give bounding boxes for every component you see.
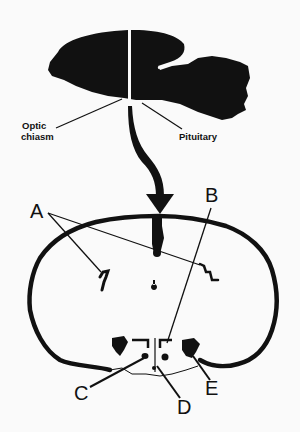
third-ventricle-bracket-right — [160, 340, 172, 348]
diagram: Optic chiasm Pituitary A B — [0, 0, 300, 432]
arrow-head — [146, 194, 174, 214]
right-lateral-ventricle — [200, 264, 218, 280]
b-leader — [167, 208, 211, 343]
optic-chiasm-leader — [56, 99, 122, 128]
left-lateral-ventricle — [100, 271, 108, 290]
section-plane-line — [128, 26, 131, 100]
arrow-shaft — [128, 106, 164, 196]
label-d: D — [177, 396, 191, 418]
label-b: B — [205, 184, 218, 206]
right-ventral-blob-e — [182, 338, 200, 358]
sagittal-brain — [48, 26, 250, 120]
coronal-section — [29, 216, 276, 376]
pituitary-label: Pituitary — [179, 131, 218, 142]
optic-chiasm-label-line1: Optic — [22, 120, 46, 131]
optic-chiasm-label-line2: chiasm — [21, 131, 54, 142]
label-a: A — [30, 200, 44, 222]
d-leader — [157, 366, 180, 398]
pituitary-leader — [142, 103, 182, 129]
label-c: C — [74, 382, 88, 404]
midline-ventral-dot — [152, 366, 156, 370]
c-leader — [90, 358, 144, 387]
dorsal-midline-structure — [152, 216, 164, 254]
left-ventral-blob — [112, 336, 128, 356]
label-e: E — [205, 377, 218, 399]
right-nucleus — [162, 354, 169, 361]
curved-arrow — [128, 106, 174, 214]
cerebrum-silhouette — [48, 30, 250, 120]
third-ventricle-bracket-left — [132, 340, 148, 348]
central-dot — [151, 280, 157, 290]
